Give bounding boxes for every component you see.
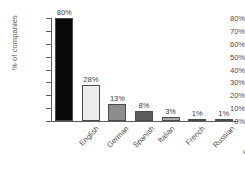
x-axis-category-label: French — [183, 124, 206, 147]
bar-english — [55, 18, 73, 121]
y-axis-title: % of companies — [10, 0, 19, 103]
x-axis-category-label: English — [77, 124, 101, 148]
bar-value-label: 28% — [75, 75, 107, 84]
x-axis-category-label: Spanish — [131, 124, 157, 150]
bar-italian — [135, 111, 153, 121]
bar-russian — [188, 119, 206, 121]
bar-chart-figure: % of companies 0%10%20%30%40%50%60%70%80… — [0, 0, 245, 170]
bar-french — [162, 117, 180, 121]
bar-value-label: 80% — [48, 8, 80, 17]
bar-german — [82, 85, 100, 121]
bar-portuguese — [215, 119, 233, 121]
x-axis-category-label: Italian — [156, 124, 177, 145]
x-axis-category-label: Portuguese — [241, 124, 245, 157]
x-axis-spine — [51, 121, 238, 122]
x-axis-category-label: German — [105, 124, 131, 150]
x-axis-category-label: Russian — [211, 124, 237, 150]
bar-value-label: 1% — [208, 109, 240, 118]
plot-area: 80%28%13%8%3%1%1% — [51, 18, 237, 121]
bar-spanish — [108, 104, 126, 121]
